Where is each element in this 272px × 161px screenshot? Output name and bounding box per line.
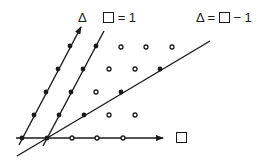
- open-lattice-point: [133, 113, 137, 117]
- filled-lattice-point: [119, 90, 124, 95]
- open-lattice-point: [70, 136, 74, 140]
- filled-lattice-point: [57, 113, 62, 118]
- minus-one: − 1: [230, 10, 252, 25]
- filled-lattice-point: [45, 136, 50, 141]
- square-icon: [103, 12, 114, 23]
- square-axis-label: [176, 131, 187, 144]
- points-layer: [20, 44, 174, 141]
- open-lattice-point: [107, 67, 111, 71]
- square-icon: [176, 132, 187, 143]
- square-eq-1-line: [43, 31, 104, 146]
- delta-eq-square-minus-1-label: Δ = − 1: [196, 11, 252, 24]
- filled-lattice-point: [69, 90, 74, 95]
- filled-lattice-point: [68, 44, 73, 49]
- equals-sign: =: [204, 10, 219, 25]
- delta-axis-label: Δ: [78, 11, 87, 24]
- open-lattice-point: [119, 45, 123, 49]
- open-lattice-point: [133, 67, 137, 71]
- square-eq-1-rhs: = 1: [118, 10, 136, 25]
- filled-lattice-point: [44, 90, 49, 95]
- filled-lattice-point: [94, 44, 99, 49]
- open-lattice-point: [94, 90, 98, 94]
- square-icon: [219, 12, 230, 23]
- triangle-icon: Δ: [78, 10, 87, 25]
- filled-lattice-point: [81, 67, 86, 72]
- filled-lattice-point: [56, 67, 61, 72]
- open-lattice-point: [107, 113, 111, 117]
- filled-lattice-point: [82, 113, 87, 118]
- open-lattice-point: [121, 136, 125, 140]
- open-lattice-point: [170, 45, 174, 49]
- filled-lattice-point: [158, 67, 163, 72]
- open-lattice-point: [144, 45, 148, 49]
- filled-lattice-point: [32, 113, 37, 118]
- filled-lattice-point: [20, 136, 25, 141]
- open-lattice-point: [95, 136, 99, 140]
- triangle-icon: Δ: [196, 10, 204, 25]
- square-eq-1-label: = 1: [103, 11, 136, 24]
